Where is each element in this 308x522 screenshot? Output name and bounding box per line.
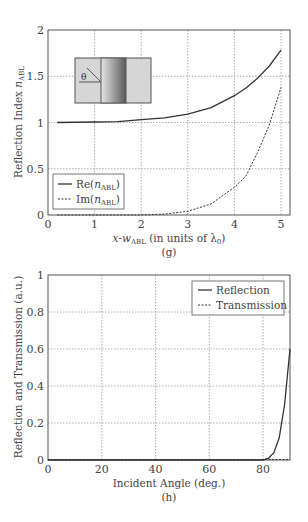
xtick: 20 (95, 463, 109, 476)
series-reflection (48, 349, 290, 460)
theta-label: θ (81, 72, 86, 82)
x-axis-label-g: x-wABL (in units of λ0) (113, 232, 226, 246)
ytick: 1 (37, 269, 44, 282)
chart-g: 0 0.5 1 1.5 2 0 1 2 3 4 5 θ (12, 24, 290, 258)
caption-h: (h) (162, 491, 177, 503)
legend-label-reflection: Reflection (216, 284, 270, 296)
y-ticks-h: 0 0.2 0.4 0.6 0.8 1 (27, 269, 45, 467)
ytick: 0.4 (27, 380, 45, 393)
xtick: 60 (202, 463, 216, 476)
inset-slab-diagram: θ (75, 58, 151, 103)
legend-h: Reflection Transmission (192, 281, 287, 315)
xtick: 4 (231, 218, 238, 231)
y-axis-label-h: Reflection and Transmission (a.u.) (12, 276, 24, 459)
ytick: 0.2 (27, 417, 45, 430)
chart-h: 0 0.2 0.4 0.6 0.8 1 0 20 40 60 80 Reflec… (12, 269, 290, 503)
ytick: 0.6 (27, 343, 45, 356)
ytick: 0 (37, 209, 44, 222)
x-axis-label-h: Incident Angle (deg.) (113, 477, 226, 489)
x-ticks-g: 0 1 2 3 4 5 (45, 218, 285, 231)
y-axis-label-g: Reflection Index nABL (12, 66, 26, 178)
ytick: 0.8 (27, 306, 45, 319)
figure: 0 0.5 1 1.5 2 0 1 2 3 4 5 θ (0, 0, 308, 522)
y-ticks-g: 0 0.5 1 1.5 2 (27, 24, 45, 222)
xtick: 1 (91, 218, 98, 231)
ytick: 0.5 (27, 163, 45, 176)
ytick: 1.5 (27, 70, 45, 83)
xtick: 80 (256, 463, 270, 476)
xtick: 0 (45, 218, 52, 231)
xtick: 5 (278, 218, 285, 231)
caption-g: (g) (162, 246, 177, 258)
x-ticks-h: 0 20 40 60 80 (45, 463, 271, 476)
legend-g: Re(nABL) Im(nABL) (53, 174, 124, 209)
xtick: 2 (138, 218, 145, 231)
xtick: 3 (184, 218, 191, 231)
xtick: 0 (45, 463, 52, 476)
ytick: 1 (37, 117, 44, 130)
ytick: 0 (37, 454, 44, 467)
legend-label-transmission: Transmission (216, 299, 287, 311)
ytick: 2 (37, 24, 44, 37)
xtick: 40 (149, 463, 163, 476)
